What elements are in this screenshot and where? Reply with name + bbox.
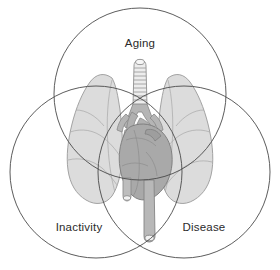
venn-label-aging: Aging bbox=[125, 37, 155, 49]
inferior-vessel-stub bbox=[123, 178, 131, 201]
left-lung bbox=[67, 75, 122, 204]
venn-diagram-canvas: Aging Inactivity Disease bbox=[0, 0, 280, 270]
venn-label-inactivity: Inactivity bbox=[56, 221, 103, 233]
trachea bbox=[133, 59, 147, 106]
venn-label-disease: Disease bbox=[183, 221, 226, 233]
thoracic-anatomy-illustration bbox=[67, 59, 213, 242]
venn-diagram-figure: Aging Inactivity Disease bbox=[0, 0, 280, 270]
descending-aorta bbox=[144, 180, 155, 242]
